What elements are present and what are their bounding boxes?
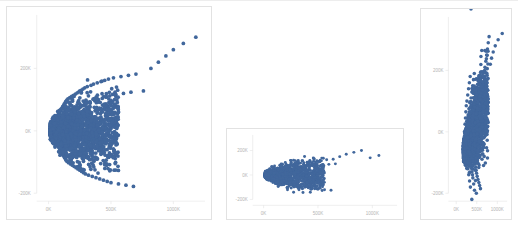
y-tick-label: -200K bbox=[19, 191, 31, 196]
x-tick-label: 500K bbox=[472, 207, 482, 212]
y-tick-label: 200K bbox=[433, 68, 443, 73]
y-axis-1: 200K 0K -200K bbox=[19, 15, 37, 196]
x-tick-label: 0K bbox=[453, 207, 458, 212]
y-tick-label: 0K bbox=[25, 129, 31, 134]
y-tick-label: 0K bbox=[242, 173, 248, 178]
scatter-panel-1[interactable]: 200K 0K -200K 0K 500K 1000K bbox=[6, 6, 212, 220]
y-tick-label: -200K bbox=[236, 197, 248, 202]
x-tick-label: 500K bbox=[106, 207, 117, 212]
bottom-caption-text bbox=[6, 228, 17, 230]
x-axis-1: 0K 500K 1000K bbox=[37, 201, 205, 212]
y-tick-label: 200K bbox=[20, 66, 31, 71]
scatter-plot-1[interactable]: 200K 0K -200K 0K 500K 1000K bbox=[7, 7, 211, 219]
scatter-panel-3[interactable]: 200K 0K -200K 0K 500K 1000K bbox=[420, 8, 512, 220]
top-rule bbox=[0, 0, 518, 1]
x-tick-label: 1000K bbox=[491, 207, 504, 212]
data-points-1 bbox=[49, 35, 198, 188]
scatter-panel-2[interactable]: 200K 0K -200K 0K 500K 1000K bbox=[226, 128, 404, 220]
x-tick-label: 0K bbox=[46, 207, 52, 212]
x-tick-label: 0K bbox=[261, 211, 267, 216]
y-tick-label: -200K bbox=[432, 191, 444, 196]
y-tick-label: 200K bbox=[237, 148, 248, 153]
x-tick-label: 1000K bbox=[366, 211, 379, 216]
y-axis-3: 200K 0K -200K bbox=[432, 17, 449, 196]
bottom-caption-strip bbox=[0, 228, 518, 235]
scatter-plot-2[interactable]: 200K 0K -200K 0K 500K 1000K bbox=[227, 129, 403, 219]
y-tick-label: 0K bbox=[438, 130, 443, 135]
data-points-2 bbox=[264, 149, 381, 194]
y-axis-2: 200K 0K -200K bbox=[236, 135, 253, 203]
data-points-3 bbox=[462, 9, 504, 201]
x-tick-label: 1000K bbox=[167, 207, 180, 212]
x-axis-2: 0K 500K 1000K bbox=[253, 205, 397, 216]
x-axis-3: 0K 500K 1000K bbox=[448, 201, 507, 212]
scatter-plot-3[interactable]: 200K 0K -200K 0K 500K 1000K bbox=[421, 9, 511, 219]
x-tick-label: 500K bbox=[313, 211, 324, 216]
